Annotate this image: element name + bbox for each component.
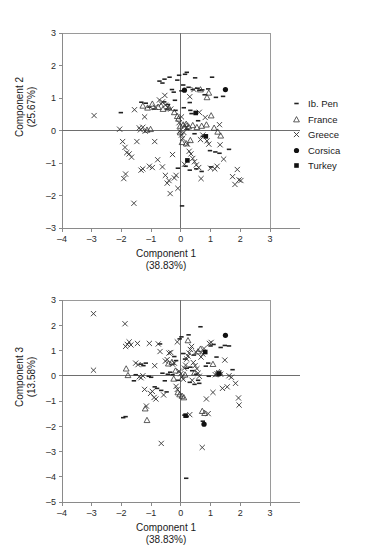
- y-axis-tick-label: 3: [51, 295, 56, 305]
- y-axis-tick-label: 1: [51, 93, 56, 103]
- y-axis-variance-top: (25.67%): [26, 47, 38, 167]
- legend-item-france: France: [290, 112, 340, 128]
- data-points-group: [91, 72, 243, 206]
- x-axis-variance-bottom: (38.83%): [22, 534, 310, 546]
- x-axis-variance-top: (38.83%): [22, 260, 310, 272]
- x-axis-tick-label: 1: [208, 234, 213, 244]
- y-axis-tick-label: –4: [46, 472, 56, 482]
- data-point-corsica: [201, 422, 206, 427]
- x-axis-tick-label: –3: [87, 234, 97, 244]
- legend-top: Ib. PenFranceGreeceCorsicaTurkey: [290, 96, 340, 174]
- x-axis-tick-label: 0: [178, 508, 183, 518]
- triangle-marker-icon: [290, 114, 303, 125]
- y-axis-tick-label: 3: [51, 28, 56, 38]
- x-axis-tick-label: –2: [116, 508, 126, 518]
- x-axis-tick-label: –1: [146, 508, 156, 518]
- x-axis-tick-label: –4: [57, 508, 67, 518]
- legend-item-corsica: Corsica: [290, 143, 340, 159]
- data-point-corsica: [223, 333, 228, 338]
- data-point-france: [123, 366, 129, 371]
- data-point-turkey: [183, 413, 188, 418]
- data-point-corsica: [182, 88, 187, 93]
- legend-item-label: Corsica: [308, 146, 340, 156]
- legend-item-label: Greece: [308, 130, 339, 140]
- data-point-france: [294, 116, 300, 121]
- y-axis-tick-label: 0: [51, 126, 56, 136]
- scatter-plot-bottom: –4–3–2–10123–5–4–3–2–10123: [0, 280, 379, 559]
- x-axis-title-bottom: Component 1 (38.83%): [22, 522, 310, 546]
- data-point-france: [218, 133, 224, 138]
- y-axis-tick-label: –5: [46, 497, 56, 507]
- legend-item-ib-pen: Ib. Pen: [290, 96, 340, 112]
- dash-marker-icon: [290, 98, 303, 109]
- x-axis-tick-label: –4: [57, 234, 67, 244]
- y-axis-tick-label: –2: [46, 422, 56, 432]
- x-axis-tick-label: –2: [116, 234, 126, 244]
- x-axis-tick-label: 2: [238, 234, 243, 244]
- chart-panel-component2: –4–3–2–10123–3–2–10123 Component 2 (25.6…: [0, 0, 379, 280]
- x-axis-tick-label: 3: [267, 508, 272, 518]
- data-point-turkey: [185, 158, 190, 163]
- chart-panel-component3: –4–3–2–10123–5–4–3–2–10123 Component 3 (…: [0, 280, 379, 559]
- y-axis-tick-label: –2: [46, 191, 56, 201]
- data-point-turkey: [294, 163, 299, 168]
- y-axis-variance-bottom: (13.58%): [26, 317, 38, 437]
- y-axis-title-top: Component 2 (25.67%): [14, 47, 37, 167]
- data-point-france: [144, 417, 150, 422]
- data-point-france: [125, 372, 131, 377]
- data-point-corsica: [294, 148, 299, 153]
- legend-item-greece: Greece: [290, 127, 340, 143]
- x-axis-tick-label: –3: [87, 508, 97, 518]
- y-axis-tick-label: –1: [46, 396, 56, 406]
- cross-marker-icon: [290, 129, 303, 140]
- y-axis-title-text-bottom: Component 3: [14, 317, 26, 437]
- y-axis-tick-label: –3: [46, 223, 56, 233]
- x-axis-title-text-top: Component 1: [22, 248, 310, 260]
- data-point-turkey: [193, 111, 198, 116]
- data-point-corsica: [223, 87, 228, 92]
- data-point-turkey: [204, 134, 209, 139]
- legend-item-turkey: Turkey: [290, 158, 340, 174]
- y-axis-tick-label: –1: [46, 158, 56, 168]
- data-point-france: [190, 122, 196, 127]
- data-point-france: [149, 101, 155, 106]
- x-axis-tick-label: 1: [208, 508, 213, 518]
- x-axis-tick-label: 0: [178, 234, 183, 244]
- y-axis-title-text-top: Component 2: [14, 47, 26, 167]
- data-points-group: [91, 311, 242, 478]
- y-axis-tick-label: 0: [51, 371, 56, 381]
- filled-square-marker-icon: [290, 160, 303, 171]
- x-axis-tick-label: 3: [267, 234, 272, 244]
- x-axis-tick-label: –1: [146, 234, 156, 244]
- legend-item-label: Ib. Pen: [308, 99, 338, 109]
- y-axis-tick-label: 2: [51, 61, 56, 71]
- y-axis-tick-label: 2: [51, 321, 56, 331]
- data-point-france: [208, 113, 214, 118]
- data-point-france: [199, 123, 205, 128]
- y-axis-title-bottom: Component 3 (13.58%): [14, 317, 37, 437]
- data-point-france: [204, 122, 210, 127]
- pca-figure: –4–3–2–10123–3–2–10123 Component 2 (25.6…: [0, 0, 379, 559]
- x-axis-tick-label: 2: [238, 508, 243, 518]
- y-axis-tick-label: 1: [51, 346, 56, 356]
- y-axis-tick-label: –3: [46, 447, 56, 457]
- data-point-france: [171, 376, 177, 381]
- data-point-france: [211, 125, 217, 130]
- data-point-france: [185, 338, 191, 343]
- x-axis-title-text-bottom: Component 1: [22, 522, 310, 534]
- data-point-turkey: [203, 350, 208, 355]
- data-point-france: [210, 361, 216, 366]
- legend-item-label: Turkey: [308, 161, 337, 171]
- x-axis-title-top: Component 1 (38.83%): [22, 248, 310, 272]
- data-point-france: [215, 129, 221, 134]
- data-point-turkey: [217, 371, 222, 376]
- data-point-france: [206, 90, 212, 95]
- filled-circle-marker-icon: [290, 145, 303, 156]
- data-point-france: [187, 137, 193, 142]
- legend-item-label: France: [308, 115, 338, 125]
